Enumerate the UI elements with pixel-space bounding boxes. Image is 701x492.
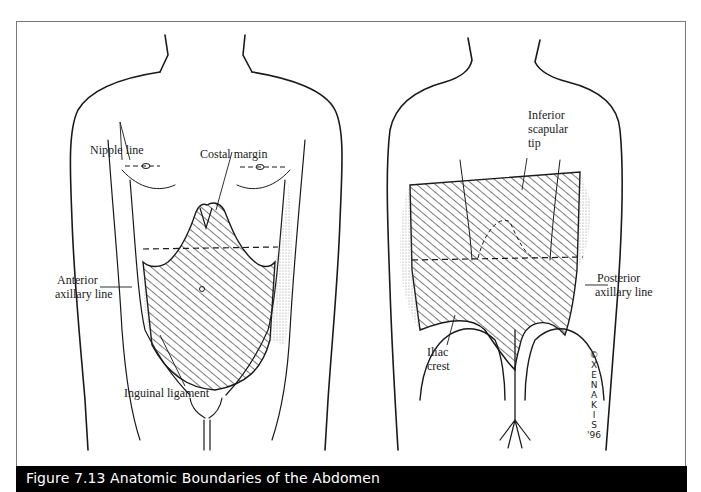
label-iliac-crest-2: crest	[427, 359, 450, 373]
label-posterior-axillary-line-2: axillary line	[595, 285, 653, 299]
label-anterior-axillary-line-1: Anterior	[57, 273, 98, 287]
figure-caption: Figure 7.13 Anatomic Boundaries of the A…	[26, 470, 380, 486]
anterior-abdomen-region	[143, 203, 275, 390]
label-posterior-axillary-line-1: Posterior	[597, 271, 640, 285]
label-costal-margin: Costal margin	[200, 147, 267, 161]
label-inferior-scapular-tip-3: tip	[528, 136, 541, 150]
anterior-flank-stipple	[270, 180, 292, 345]
signature-copyright: ©	[587, 350, 601, 360]
label-iliac-crest-1: Iliac	[427, 345, 448, 359]
figure-caption-bar: Figure 7.13 Anatomic Boundaries of the A…	[16, 466, 687, 492]
signature-year: '96	[587, 430, 601, 440]
label-anterior-axillary-line-2: axillary line	[55, 287, 113, 301]
label-inguinal-ligament: Inguinal ligament	[124, 386, 209, 400]
label-nipple-line: Nipple line	[90, 143, 144, 157]
label-inferior-scapular-tip-1: Inferior	[528, 108, 565, 122]
signature-artist: XENAKIS	[591, 360, 598, 430]
label-inferior-scapular-tip-2: scapular	[528, 122, 568, 136]
artist-signature: © XENAKIS '96	[587, 350, 601, 440]
posterior-abdomen-region	[410, 172, 580, 370]
